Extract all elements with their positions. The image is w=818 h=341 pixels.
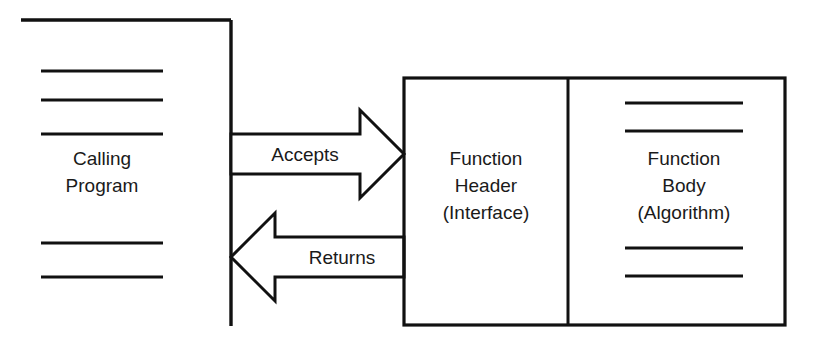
function-body-pane: Function Body (Algorithm) [625, 103, 743, 276]
accepts-arrow-group: Accepts [231, 110, 404, 198]
function-body-label-line1: Function [648, 148, 721, 169]
function-header-label-line1: Function [450, 148, 523, 169]
calling-program-label-line2: Program [66, 175, 139, 196]
calling-program-code-lines-lower [41, 243, 163, 277]
returns-arrow-group: Returns [231, 213, 404, 301]
calling-program-code-lines-upper [41, 71, 163, 134]
accepts-arrow-label: Accepts [271, 144, 339, 165]
function-header-label-line3: (Interface) [443, 202, 530, 223]
function-body-label-line3: (Algorithm) [638, 202, 731, 223]
returns-arrow-label: Returns [309, 247, 376, 268]
function-header-label-line2: Header [455, 175, 518, 196]
calling-program-label: Calling Program [66, 148, 139, 196]
calling-program-label-line1: Calling [73, 148, 131, 169]
calling-program-frame [21, 20, 231, 326]
function-body-label-line2: Body [662, 175, 706, 196]
function-header-pane: Function Header (Interface) [443, 148, 530, 223]
diagram-canvas: Calling Program Accepts Returns Funct [0, 0, 818, 341]
function-call-diagram: Calling Program Accepts Returns Funct [0, 0, 818, 341]
